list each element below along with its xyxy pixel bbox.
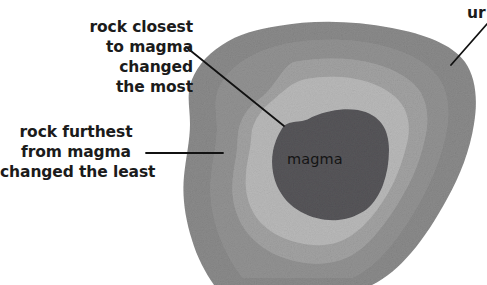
annotation-line: to magma [0,37,193,57]
annotation-rock-furthest-from-magma: rock furthest from magma changed the lea… [0,122,152,182]
annotation-line: rock closest [0,17,193,37]
annotation-rock-closest-to-magma: rock closest to magma changed the most [0,17,193,98]
leader-line-unchanged-rock [451,24,487,65]
annotation-line: changed the least [0,162,152,182]
annotation-line: ur [467,3,485,23]
annotation-line: changed [0,57,193,77]
magma-label: magma [287,151,343,167]
diagram-canvas: rock closest to magma changed the most r… [0,0,487,285]
annotation-line: the most [0,77,193,97]
annotation-line: rock furthest [0,122,152,142]
annotation-unchanged-rock: ur [467,3,485,23]
annotation-line: from magma [0,142,152,162]
